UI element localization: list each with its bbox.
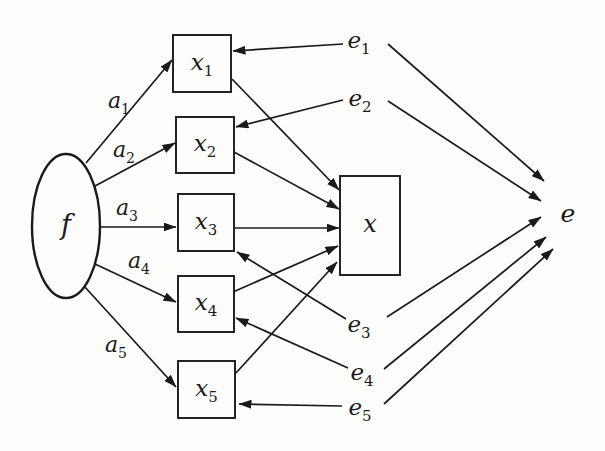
e4-to-x4-arrow xyxy=(236,318,348,368)
e1-error-node-label: e1 xyxy=(347,27,370,58)
e2-to-e-arrow xyxy=(388,101,541,201)
f-to-x4-coefficient-label: a4 xyxy=(128,248,150,277)
f-to-x1-coefficient-label: a1 xyxy=(108,88,130,117)
x1-to-x-arrow xyxy=(232,79,339,190)
e3-to-x3-arrow xyxy=(237,252,346,319)
composite-e-node-label: e xyxy=(561,199,576,228)
e2-to-x2-arrow xyxy=(236,100,343,127)
e1-to-x1-arrow xyxy=(233,44,343,51)
e2-error-node-label: e2 xyxy=(348,85,371,116)
f-to-x3-coefficient-label: a3 xyxy=(116,195,138,224)
e5-to-x5-arrow xyxy=(239,404,342,406)
x4-to-x-arrow xyxy=(233,246,338,292)
factor-model-diagram: a1a2a3a4a5fx1x2x3x4x5xe1e2e3e4e5e xyxy=(0,0,605,451)
e3-to-e-arrow xyxy=(387,217,541,317)
f-to-x5-arrow xyxy=(84,286,176,387)
diagram-svg: a1a2a3a4a5fx1x2x3x4x5xe1e2e3e4e5e xyxy=(0,0,605,451)
composite-x-box-label: x xyxy=(363,210,377,238)
e1-to-e-arrow xyxy=(388,44,544,181)
f-to-x2-coefficient-label: a2 xyxy=(113,137,135,166)
e5-to-e-arrow xyxy=(384,249,553,404)
e4-error-node-label: e4 xyxy=(350,359,373,390)
e3-error-node-label: e3 xyxy=(347,311,370,342)
f-to-x5-coefficient-label: a5 xyxy=(105,332,127,361)
e5-error-node-label: e5 xyxy=(348,394,371,425)
x2-to-x-arrow xyxy=(234,152,339,209)
